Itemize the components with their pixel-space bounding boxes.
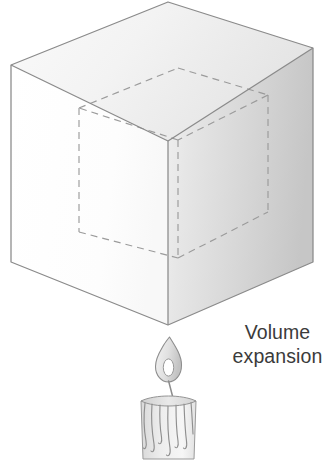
figure-canvas: Volume expansion bbox=[0, 0, 324, 467]
caption-line-2: expansion bbox=[231, 344, 324, 368]
cube-faces bbox=[11, 2, 313, 325]
volume-expansion-illustration bbox=[0, 0, 324, 467]
caption-line-1: Volume bbox=[231, 320, 324, 344]
candle-flame-inner-core bbox=[163, 359, 173, 376]
candle bbox=[141, 337, 196, 459]
candle-wick bbox=[169, 381, 173, 396]
caption-volume-expansion: Volume expansion bbox=[231, 320, 324, 368]
